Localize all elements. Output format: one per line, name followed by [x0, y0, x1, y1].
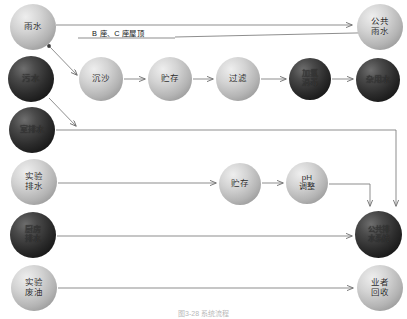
edge-label-building-roof: B 座、C 座屋顶 — [92, 27, 144, 38]
edge-rainwater-to-sedimentation — [50, 47, 77, 75]
node-sewage-label: 污水 — [22, 74, 40, 84]
flow-connector-layer — [0, 0, 407, 319]
node-storage-1[interactable]: 贮存 — [148, 57, 192, 101]
node-lab-drainage[interactable]: 实验 排水 — [11, 159, 57, 205]
node-chlorination-label: 加氯 消毒 — [302, 70, 318, 88]
node-ph-adjustment[interactable]: pH 调整 — [286, 162, 328, 204]
node-contractor-recovery-label: 业者 回收 — [371, 278, 389, 297]
node-public-rainwater-label: 公共 雨水 — [371, 17, 389, 36]
node-utility-water[interactable]: 杂用水 — [356, 58, 400, 102]
node-sedimentation-label: 沉沙 — [92, 74, 110, 84]
node-public-sewer-label: 公共排 水系统 — [368, 226, 390, 243]
figure-caption: 图3-28 系统流程 — [0, 308, 407, 318]
node-chlorination[interactable]: 加氯 消毒 — [289, 58, 331, 100]
node-contractor-recovery[interactable]: 业者 回收 — [357, 265, 403, 311]
node-rainwater[interactable]: 雨水 — [10, 4, 56, 50]
node-storage-1-label: 贮存 — [161, 74, 179, 84]
node-indoor-drainage[interactable]: 室排水 — [9, 107, 55, 153]
node-utility-water-label: 杂用水 — [366, 76, 391, 85]
node-storage-2-label: 贮存 — [231, 179, 249, 189]
node-lab-waste-oil-label: 实验 废油 — [25, 278, 43, 297]
edge-ph-to-public-sewer — [329, 184, 370, 206]
node-sewage[interactable]: 污水 — [8, 56, 54, 102]
node-lab-waste-oil[interactable]: 实验 废油 — [11, 265, 57, 311]
node-sedimentation[interactable]: 沉沙 — [79, 57, 123, 101]
node-kitchen-drainage-label: 厨房 排水 — [25, 226, 41, 244]
node-rainwater-label: 雨水 — [24, 22, 42, 32]
node-public-rainwater[interactable]: 公共 雨水 — [357, 4, 403, 50]
node-lab-drainage-label: 实验 排水 — [25, 172, 43, 191]
node-filtration[interactable]: 过滤 — [216, 57, 260, 101]
node-ph-adjustment-label: pH 调整 — [299, 174, 315, 192]
system-flow-diagram: 雨水 公共 雨水 污水 沉沙 贮存 过滤 加氯 消毒 杂用水 室排水 实验 排水… — [0, 0, 407, 319]
node-filtration-label: 过滤 — [229, 74, 247, 84]
node-public-sewer[interactable]: 公共排 水系统 — [355, 211, 402, 258]
node-storage-2[interactable]: 贮存 — [219, 163, 261, 205]
node-indoor-drainage-label: 室排水 — [20, 126, 45, 135]
node-kitchen-drainage[interactable]: 厨房 排水 — [10, 212, 56, 258]
